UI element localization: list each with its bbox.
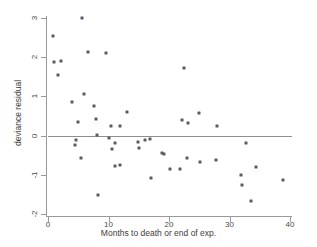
data-point <box>86 50 89 53</box>
data-point <box>181 118 184 121</box>
data-point <box>118 164 121 167</box>
data-point <box>79 157 82 160</box>
data-point <box>73 144 76 147</box>
data-point <box>185 156 188 159</box>
data-point <box>95 117 98 120</box>
data-point <box>149 138 152 141</box>
data-point <box>53 61 56 64</box>
data-point <box>149 176 152 179</box>
data-point <box>249 199 252 202</box>
data-point <box>107 137 110 140</box>
data-point <box>162 153 165 156</box>
data-point <box>109 124 112 127</box>
data-point <box>137 146 140 149</box>
data-point <box>282 179 285 182</box>
data-point <box>198 161 201 164</box>
data-point <box>187 122 190 125</box>
data-point <box>125 110 128 113</box>
data-point <box>215 125 218 128</box>
data-point <box>96 133 99 136</box>
data-point <box>182 67 185 70</box>
data-point <box>245 142 248 145</box>
data-point <box>114 165 117 168</box>
data-point <box>74 139 77 142</box>
data-point <box>118 124 121 127</box>
data-point <box>83 93 86 96</box>
data-point <box>56 73 59 76</box>
data-point <box>198 111 201 114</box>
data-point <box>168 167 171 170</box>
data-point <box>92 105 95 108</box>
data-point <box>215 158 218 161</box>
scatter-plot-figure: -2-10123 010203040 Months to death or en… <box>0 0 317 247</box>
data-point <box>239 173 242 176</box>
data-point <box>255 165 258 168</box>
data-points-layer <box>0 0 317 247</box>
data-point <box>143 139 146 142</box>
data-point <box>179 168 182 171</box>
data-point <box>59 59 62 62</box>
data-point <box>71 101 74 104</box>
data-point <box>96 193 99 196</box>
y-axis-title: deviance residual <box>13 53 23 173</box>
data-point <box>113 142 116 145</box>
data-point <box>51 34 54 37</box>
data-point <box>77 121 80 124</box>
data-point <box>241 183 244 186</box>
data-point <box>105 51 108 54</box>
data-point <box>81 16 84 19</box>
data-point <box>136 140 139 143</box>
data-point <box>111 147 114 150</box>
x-axis-title: Months to death or end of exp. <box>0 228 317 238</box>
